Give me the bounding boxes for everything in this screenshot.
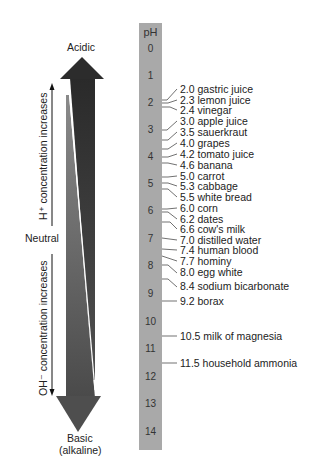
neutral-label: Neutral (25, 232, 59, 244)
ph-tick: 11 (139, 343, 162, 354)
ph-tick: 7 (139, 233, 162, 244)
acidic-label: Acidic (67, 41, 95, 53)
ph-header: pH (139, 26, 162, 38)
ph-tick: 9 (139, 288, 162, 299)
h-concentration-label: H⁺ concentration increases (37, 93, 49, 220)
basic-label: Basic (67, 432, 93, 444)
ph-tick: 1 (139, 70, 162, 81)
ph-tick: 4 (139, 151, 162, 162)
ph-tick: 0 (139, 43, 162, 54)
ph-tick: 6 (139, 205, 162, 216)
oh-concentration-label: OH⁻ concentration increases (37, 260, 49, 396)
ph-tick: 14 (139, 426, 162, 437)
ph-tick: 13 (139, 398, 162, 409)
ph-tick: 10 (139, 316, 162, 327)
connector-lines (162, 89, 177, 363)
substance-label: 10.5 milk of magnesia (180, 331, 282, 342)
ph-tick: 8 (139, 260, 162, 271)
substance-label: 8.0 egg white (180, 267, 242, 278)
ph-tick: 5 (139, 178, 162, 189)
substance-label: 8.4 sodium bicarbonate (180, 281, 289, 292)
ph-tick: 2 (139, 97, 162, 108)
substance-label: 11.5 household ammonia (180, 358, 297, 369)
oh-increase-arrow-icon (50, 254, 55, 396)
alkaline-label: (alkaline) (59, 444, 102, 456)
substance-label: 9.2 borax (180, 296, 224, 307)
ph-tick: 12 (139, 371, 162, 382)
ph-tick: 3 (139, 124, 162, 135)
h-increase-arrow-icon (50, 83, 55, 226)
